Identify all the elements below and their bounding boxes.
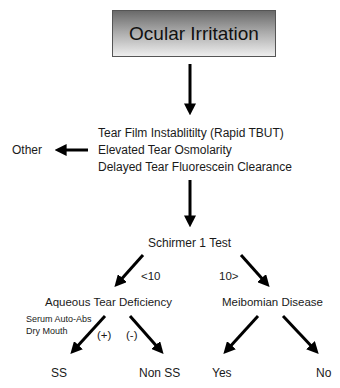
meibomian-node-label: Meibomian Disease	[222, 296, 323, 308]
aqueous-node-label: Aqueous Tear Deficiency	[45, 296, 172, 308]
other-node-label: Other	[12, 143, 42, 157]
arrow-test-to-meibomian	[241, 255, 266, 283]
criteria-line-2: Elevated Tear Osmolarity	[98, 143, 232, 157]
threshold-right: 10>	[219, 270, 239, 282]
arrow-test-to-aqueous	[118, 255, 143, 283]
threshold-left: <10	[141, 270, 161, 282]
sign-positive: (+)	[97, 329, 111, 341]
test-node-label: Schirmer 1 Test	[148, 236, 231, 250]
outcome-non-ss: Non SS	[139, 366, 180, 380]
outcome-yes: Yes	[212, 366, 232, 380]
arrow-meibomian-to-yes	[227, 316, 258, 350]
criteria-line-3: Delayed Tear Fluorescein Clearance	[98, 160, 292, 174]
aqueous-note-1: Serum Auto-Abs	[26, 313, 92, 325]
criteria-line-1: Tear Film Instablitilty (Rapid TBUT)	[98, 126, 284, 140]
root-node-label: Ocular Irritation	[129, 23, 259, 45]
outcome-ss: SS	[51, 366, 67, 380]
arrow-meibomian-to-no	[283, 316, 315, 350]
outcome-no: No	[316, 366, 331, 380]
aqueous-note-2: Dry Mouth	[26, 325, 68, 337]
root-node-box: Ocular Irritation	[112, 10, 276, 57]
sign-negative: (-)	[126, 329, 138, 341]
